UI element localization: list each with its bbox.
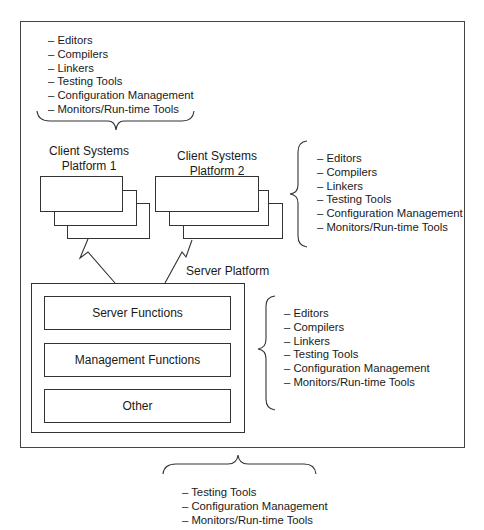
connector-lines <box>0 0 484 530</box>
client1-link-icon <box>80 239 115 283</box>
server-tools-brace-icon <box>258 296 275 410</box>
overall-tools-brace-icon <box>163 455 316 474</box>
top-tools-brace-icon <box>37 111 194 130</box>
client2-link-icon <box>165 240 192 283</box>
client2-tools-brace-icon <box>290 141 307 247</box>
